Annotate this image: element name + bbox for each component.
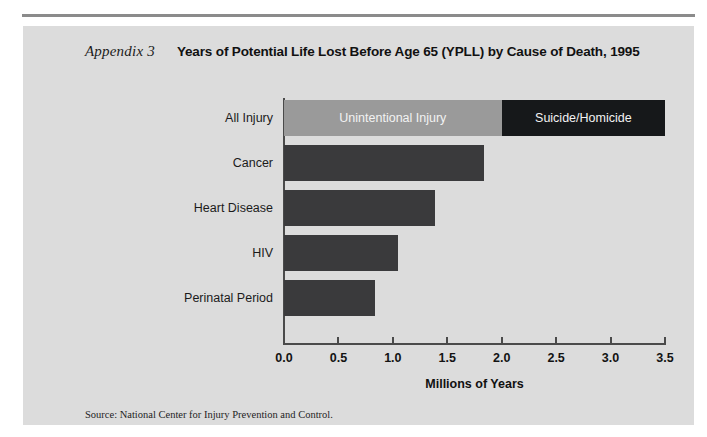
- x-axis-tick-label: 3.5: [645, 351, 685, 365]
- x-axis-tick-label: 2.0: [482, 351, 522, 365]
- category-label: All Injury: [113, 111, 273, 125]
- bar-segment-label: Unintentional Injury: [284, 100, 502, 136]
- x-axis-tick-label: 2.5: [536, 351, 576, 365]
- x-axis-tick-label: 1.5: [427, 351, 467, 365]
- x-axis-title: Millions of Years: [284, 377, 665, 391]
- bar-segment: [284, 235, 398, 271]
- bar-segment: [284, 145, 484, 181]
- x-axis-tick: [337, 337, 339, 343]
- source-note: Source: National Center for Injury Preve…: [85, 409, 333, 420]
- x-axis-tick: [610, 337, 612, 343]
- chart-bar: [284, 280, 375, 316]
- x-axis-tick: [555, 337, 557, 343]
- x-axis-tick-label: 3.0: [591, 351, 631, 365]
- chart-bar: [284, 190, 435, 226]
- category-label: HIV: [113, 246, 273, 260]
- x-axis-tick: [664, 337, 666, 343]
- chart-bar: Unintentional InjurySuicide/Homicide: [284, 100, 665, 136]
- bar-segment-label: Suicide/Homicide: [502, 100, 665, 136]
- chart-bar: [284, 145, 484, 181]
- chart-bar: [284, 235, 398, 271]
- category-label: Perinatal Period: [113, 291, 273, 305]
- x-axis-tick-label: 0.5: [318, 351, 358, 365]
- x-axis-tick: [283, 337, 285, 343]
- x-axis-tick-label: 1.0: [373, 351, 413, 365]
- bar-segment: [284, 280, 375, 316]
- x-axis-tick-label: 0.0: [264, 351, 304, 365]
- x-axis-line: [283, 343, 666, 345]
- figure-panel: Appendix 3Years of Potential Life Lost B…: [23, 26, 694, 425]
- x-axis-tick: [501, 337, 503, 343]
- category-label: Cancer: [113, 156, 273, 170]
- bar-segment: [284, 190, 435, 226]
- page-top-rule: [22, 14, 695, 17]
- x-axis-tick: [392, 337, 394, 343]
- category-label: Heart Disease: [113, 201, 273, 215]
- chart-plot-area: All InjuryUnintentional InjurySuicide/Ho…: [23, 26, 694, 425]
- x-axis-tick: [446, 337, 448, 343]
